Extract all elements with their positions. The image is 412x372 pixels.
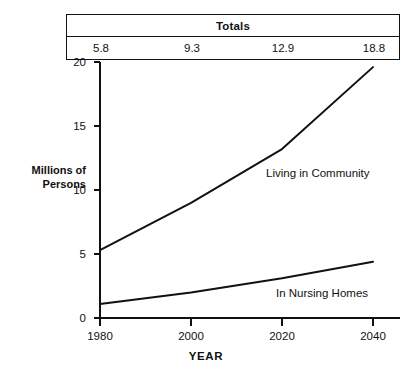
- totals-values-row: 5.89.312.918.8: [67, 38, 399, 59]
- y-tick-label: 20: [46, 56, 86, 68]
- y-tick-label: 0: [46, 312, 86, 324]
- data-series-lines: [100, 67, 373, 304]
- totals-value: 12.9: [253, 38, 313, 59]
- series-label-in-nursing-homes: In Nursing Homes: [276, 287, 368, 300]
- series-line-community: [100, 67, 373, 250]
- totals-panel: Totals 5.89.312.918.8: [66, 14, 400, 60]
- totals-value: 9.3: [162, 38, 222, 59]
- totals-value: 18.8: [344, 38, 404, 59]
- totals-divider: [67, 36, 399, 37]
- y-tick-label: 10: [46, 184, 86, 196]
- x-axis-title: YEAR: [0, 350, 412, 362]
- y-tick-label: 5: [46, 248, 86, 260]
- x-tick-label: 2040: [343, 330, 403, 343]
- chart-figure: Totals 5.89.312.918.8 Millions of Person…: [0, 0, 412, 372]
- x-tick-label: 2020: [252, 330, 312, 343]
- y-axis-title-line1: Millions of: [32, 164, 86, 176]
- totals-title: Totals: [67, 17, 399, 35]
- x-tick-label: 2000: [161, 330, 221, 343]
- y-tick-label: 15: [46, 120, 86, 132]
- x-tick-label: 1980: [70, 330, 130, 343]
- axes-lines: [100, 62, 400, 318]
- series-label-living-in-community: Living in Community: [266, 167, 370, 180]
